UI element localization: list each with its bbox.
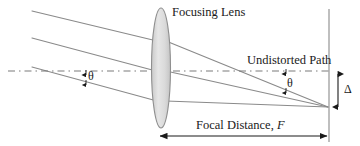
focal-distance-label: Focal Distance, F bbox=[196, 119, 285, 132]
outgoing-ray-group bbox=[166, 41, 328, 107]
focal-distance-symbol: F bbox=[277, 118, 285, 132]
undistorted-path-label: Undistorted Path bbox=[247, 54, 331, 67]
theta-left-label: θ bbox=[88, 70, 94, 82]
optical-diagram-figure: Focusing Lens Undistorted Path Focal Dis… bbox=[0, 0, 360, 146]
focusing-lens-shape bbox=[152, 8, 171, 128]
theta-right-label: θ bbox=[287, 77, 293, 89]
incoming-ray-group bbox=[32, 11, 157, 101]
diagram-canvas bbox=[0, 0, 360, 146]
incoming-ray-top bbox=[32, 11, 157, 41]
delta-label: Δ bbox=[344, 83, 352, 95]
outgoing-ray-top bbox=[166, 41, 328, 107]
focusing-lens-label: Focusing Lens bbox=[172, 6, 245, 19]
incoming-ray-bottom bbox=[32, 67, 157, 101]
focal-distance-text: Focal Distance, bbox=[196, 118, 277, 132]
incoming-ray-middle bbox=[32, 38, 156, 71]
